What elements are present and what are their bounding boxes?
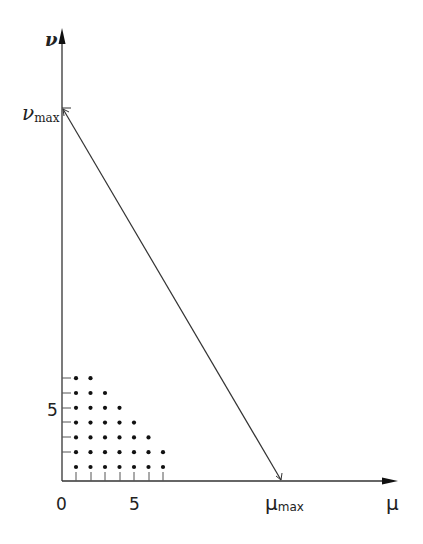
lattice-point [146,465,150,469]
lattice-point [74,406,78,410]
lattice-point [103,406,107,410]
lattice-point [74,391,78,395]
nu-axis-label: ν [45,29,58,50]
lattice-points [74,376,165,469]
lattice-point [132,450,136,454]
mu-max-label: μmax [265,491,304,515]
lattice-point [103,435,107,439]
lattice-point [88,435,92,439]
lattice-point [88,406,92,410]
lattice-point [132,421,136,425]
lattice-point [117,465,121,469]
lattice-point [103,391,107,395]
lattice-point [74,435,78,439]
lattice-diagram: ν νmax 5 0 5 μmax μ [0,0,423,544]
lattice-point [74,465,78,469]
lattice-point [88,376,92,380]
nu-axis-arrow-icon [59,28,66,44]
nu-max-label: νmax [22,101,60,125]
lattice-point [146,435,150,439]
lattice-point [103,465,107,469]
lattice-point [132,465,136,469]
nu-axis-ticks [62,378,71,452]
lattice-point [74,450,78,454]
lattice-point [88,421,92,425]
mu-max-sub: max [278,500,304,514]
lattice-point [146,450,150,454]
lattice-point [117,450,121,454]
nu-max-sub: max [34,111,60,125]
lattice-point [132,435,136,439]
lattice-point [117,406,121,410]
x-five-label: 5 [129,494,140,514]
mu-axis-arrow-icon [382,478,398,485]
boundary-line [63,109,281,480]
lattice-point [103,450,107,454]
lattice-point [88,450,92,454]
origin-label: 0 [56,494,67,514]
lattice-point [88,391,92,395]
lattice-point [74,421,78,425]
lattice-point [117,421,121,425]
lattice-point [88,465,92,469]
lattice-point [161,450,165,454]
mu-max-main: μ [265,491,278,515]
lattice-point [74,376,78,380]
nu-max-main: ν [22,101,34,125]
lattice-point [103,421,107,425]
lattice-point [117,435,121,439]
lattice-point [161,465,165,469]
y-five-label: 5 [47,400,58,420]
mu-axis-ticks [76,472,163,481]
mu-axis-label: μ [386,491,399,515]
